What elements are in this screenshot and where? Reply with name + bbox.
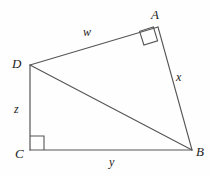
vertex-label-b: B bbox=[196, 145, 204, 158]
vertex-label-d: D bbox=[12, 57, 21, 70]
segment-da bbox=[30, 27, 158, 65]
segment-ab bbox=[158, 27, 192, 150]
side-label-x: x bbox=[176, 71, 181, 83]
side-label-z: z bbox=[14, 103, 19, 115]
vertex-label-c: C bbox=[15, 147, 24, 160]
vertex-label-a: A bbox=[151, 8, 159, 21]
side-label-w: w bbox=[83, 26, 91, 38]
geometry-figure: A B C D w x y z bbox=[0, 0, 210, 177]
right-angle-marker-c bbox=[30, 136, 44, 150]
side-label-y: y bbox=[109, 156, 114, 168]
figure-canvas bbox=[0, 0, 210, 177]
segment-db-diagonal bbox=[30, 65, 192, 150]
